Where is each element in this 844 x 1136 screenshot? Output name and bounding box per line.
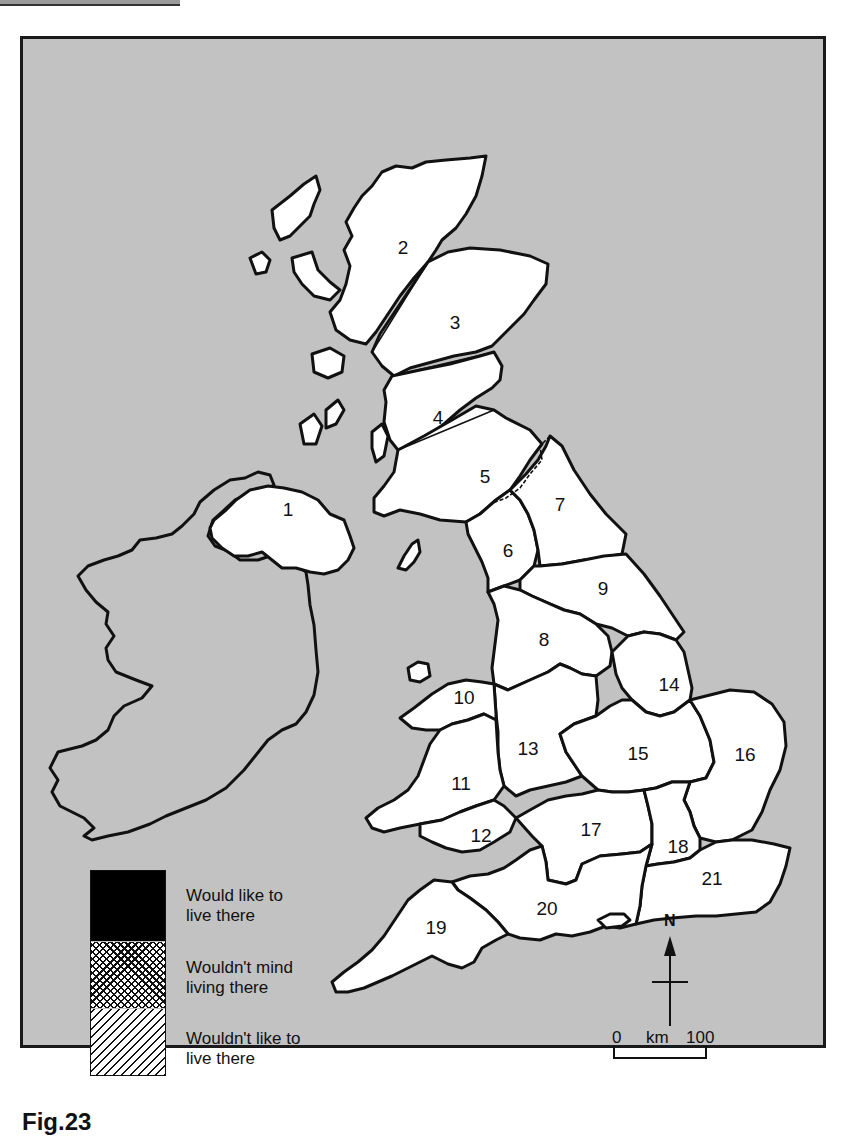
jura-island-shape [326, 400, 344, 428]
scale-unit: km [646, 1028, 669, 1048]
legend-line: live there [186, 906, 283, 926]
legend-line: Wouldn't like to [186, 1029, 300, 1049]
region-label-19: 19 [425, 917, 446, 939]
uist-island-shape [250, 252, 270, 274]
region-label-6: 6 [503, 540, 514, 562]
legend-line: Wouldn't mind [186, 958, 293, 978]
region-label-12: 12 [470, 825, 491, 847]
region-label-9: 9 [598, 578, 609, 600]
scale-end: 100 [686, 1028, 714, 1048]
north-label: N [664, 912, 676, 930]
figure-caption: Fig.23 [22, 1108, 91, 1136]
region-label-5: 5 [480, 466, 491, 488]
legend-label-would-like: Would like to live there [186, 886, 283, 926]
legend-line: live there [186, 1049, 300, 1069]
region-label-10: 10 [453, 687, 474, 709]
region-label-11: 11 [451, 773, 471, 795]
region-label-13: 13 [517, 738, 538, 760]
region-label-20: 20 [536, 898, 557, 920]
anglesey-shape [408, 662, 430, 682]
mull-island-shape [312, 348, 344, 378]
scale-start: 0 [612, 1028, 621, 1048]
isle-of-man-shape [398, 540, 420, 570]
legend-swatches [90, 870, 166, 1076]
region-label-18: 18 [667, 836, 688, 858]
region-label-7: 7 [555, 494, 566, 516]
region-label-17: 17 [580, 819, 601, 841]
region-label-16: 16 [734, 744, 755, 766]
region-label-21: 21 [701, 868, 722, 890]
north-arrow-icon [650, 930, 694, 1026]
skye-island-shape [292, 252, 340, 300]
legend-label-wouldnt-like: Wouldn't like to live there [186, 1029, 300, 1069]
lewis-island-shape [272, 176, 320, 240]
legend-label-wouldnt-mind: Wouldn't mind living there [186, 958, 293, 998]
legend-swatch-would-like [91, 871, 165, 941]
legend-swatch-wouldnt-mind [91, 942, 165, 1008]
region-label-8: 8 [539, 629, 550, 651]
legend-swatch-wouldnt-like [91, 1009, 165, 1075]
scale-bar-icon [612, 1046, 712, 1060]
region-label-3: 3 [450, 312, 461, 334]
region-label-14: 14 [658, 674, 679, 696]
islay-island-shape [300, 414, 322, 444]
region-label-1: 1 [283, 499, 294, 521]
legend-line: living there [186, 978, 293, 998]
region-label-2: 2 [398, 237, 409, 259]
arran-island-shape [372, 424, 388, 462]
legend-line: Would like to [186, 886, 283, 906]
region-label-15: 15 [627, 743, 648, 765]
region-label-4: 4 [433, 407, 444, 429]
